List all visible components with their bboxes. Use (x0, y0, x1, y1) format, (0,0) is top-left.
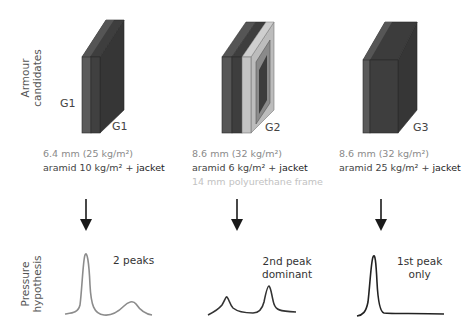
spec-composition: aramid 25 kg/m² + jacket (339, 161, 461, 175)
spec-thickness: 8.6 mm (32 kg/m²) (192, 147, 323, 161)
pressure-note-g2: 2nd peak dominant (262, 255, 312, 281)
arrow-down-icon-g1 (80, 199, 92, 231)
block-tag-g2: G2 (265, 121, 281, 134)
spec-g3: 8.6 mm (32 kg/m²) aramid 25 kg/m² + jack… (339, 147, 461, 175)
composition-text: aramid 25 kg/m² + (339, 162, 432, 173)
spec-g1: 6.4 mm (25 kg/m²) aramid 10 kg/m² + jack… (43, 147, 165, 175)
note-line: 2 peaks (113, 254, 154, 267)
row-label-line: Pressure (20, 250, 32, 318)
pressure-note-g3: 1st peak only (397, 255, 442, 281)
composition-text: aramid 6 kg/m² + (192, 162, 279, 173)
armour-block-g2 (222, 22, 274, 133)
note-line: 2nd peak (262, 255, 312, 268)
composition-text: aramid 10 kg/m² + (43, 162, 136, 173)
spec-thickness: 6.4 mm (25 kg/m²) (43, 147, 165, 161)
jacket-text: jacket (136, 162, 164, 173)
note-line: dominant (262, 268, 312, 281)
row-label-line: Armour (20, 44, 32, 112)
block-tag-g1: G1 (112, 120, 128, 133)
spec-g2: 8.6 mm (32 kg/m²) aramid 6 kg/m² + jacke… (192, 147, 323, 189)
jacket-text: jacket (279, 162, 307, 173)
spec-composition: aramid 6 kg/m² + jacket (192, 161, 323, 175)
jacket-text: jacket (432, 162, 460, 173)
block-tag-g3: G3 (413, 121, 429, 134)
arrow-down-icon-g2 (231, 199, 243, 231)
row-label-armour-candidates: Armour candidates (20, 44, 44, 112)
spec-composition: aramid 10 kg/m² + jacket (43, 161, 165, 175)
arrow-down-icon-g3 (375, 199, 387, 231)
pressure-note-g1: 2 peaks (113, 254, 154, 267)
row-label-pressure-hypothesis: Pressure hypothesis (20, 250, 44, 318)
note-line: only (397, 268, 442, 281)
pressure-curve-g2 (208, 286, 296, 315)
spec-thickness: 8.6 mm (32 kg/m²) (339, 147, 461, 161)
armour-block-g3 (363, 22, 417, 133)
spec-extra: 14 mm polyurethane frame (192, 175, 323, 189)
note-line: 1st peak (397, 255, 442, 268)
row-label-line: candidates (32, 44, 44, 112)
row-label-line: hypothesis (32, 250, 44, 318)
block-tag-g1-left: G1 (60, 97, 76, 110)
armour-block-g1 (82, 20, 124, 133)
